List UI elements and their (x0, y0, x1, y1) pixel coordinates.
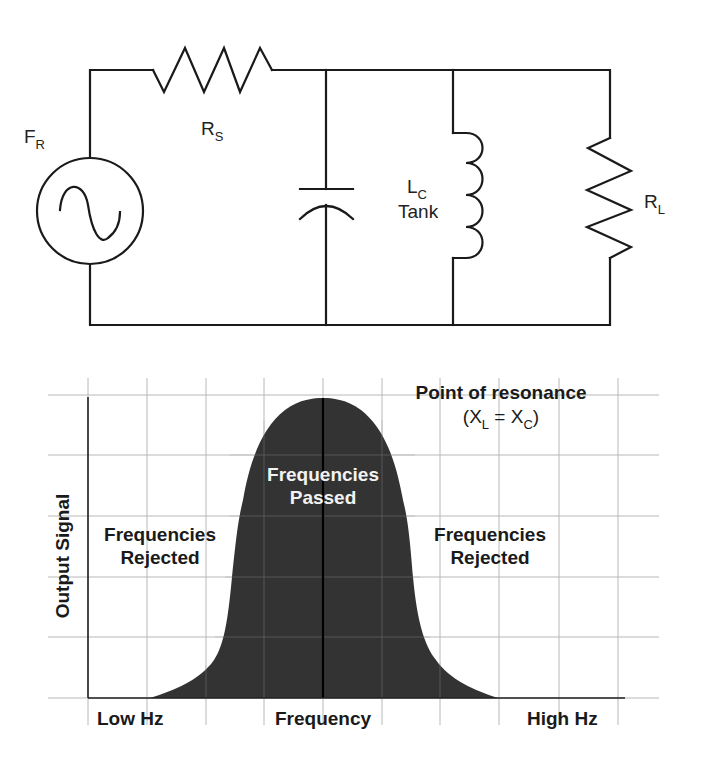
y-axis-label: Output Signal (52, 494, 73, 619)
passband-label-line2: Passed (290, 487, 357, 508)
frequency-response-graph: Output Signal Low Hz Frequency High Hz F… (48, 378, 659, 729)
reject-left-label-line2: Rejected (120, 547, 199, 568)
inductor-coil-icon (453, 133, 483, 258)
series-resistor-label: RS (201, 118, 224, 144)
bottom-wire (90, 258, 610, 325)
diagram-canvas: FR RS LC Tank RL (0, 0, 704, 763)
passband-label-line1: Frequencies (267, 464, 379, 485)
x-high-label: High Hz (527, 708, 598, 729)
reject-right-label-line1: Frequencies (434, 524, 546, 545)
reject-right-label-line2: Rejected (450, 547, 529, 568)
top-wire-right (272, 70, 610, 138)
resonance-label-line1: Point of resonance (415, 382, 586, 403)
tank-label-line2: Tank (398, 201, 439, 222)
x-axis-label: Frequency (275, 708, 372, 729)
sine-wave-icon (60, 187, 120, 240)
resonance-label-line2: (XL = XC) (463, 406, 539, 432)
tank-label: LC (407, 176, 427, 202)
load-resistor-rl (587, 138, 631, 258)
load-resistor-label: RL (644, 191, 665, 217)
reject-left-label-line1: Frequencies (104, 524, 216, 545)
circuit-schematic: FR RS LC Tank RL (24, 48, 665, 325)
source-label: FR (24, 126, 45, 152)
top-wire-left (90, 70, 153, 158)
x-low-label: Low Hz (97, 708, 164, 729)
series-resistor-rs (153, 48, 272, 92)
